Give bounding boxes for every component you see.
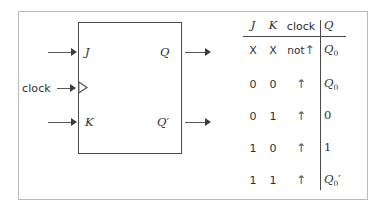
cell-q: Q0: [324, 44, 350, 56]
rising-edge-arrow-icon: ↑: [296, 109, 306, 123]
cell-j: 1: [244, 175, 262, 186]
k-port-label: K: [85, 117, 94, 129]
rising-edge-arrow-icon: ↑: [296, 173, 306, 187]
q-output-arrow-icon: [205, 48, 211, 56]
flip-flop-body: [78, 22, 182, 154]
cell-q: 1: [324, 142, 350, 154]
table-row: 10↑1: [238, 140, 350, 156]
q-port-label: Q: [160, 47, 169, 59]
cell-j: 1: [244, 143, 262, 154]
clock-input-label: clock: [22, 83, 51, 94]
clock-not-label: not: [287, 44, 304, 56]
cell-k: 1: [264, 175, 282, 186]
cell-clock: ↑: [282, 174, 320, 186]
rising-edge-arrow-icon: ↑: [296, 77, 306, 91]
table-row: 00↑Q0: [238, 76, 350, 92]
header-cell-clock: clock: [282, 21, 320, 32]
jk-flip-flop-figure: J K Q Q′ clock J K clock Q XXnot↑Q000↑Q0…: [0, 0, 383, 213]
table-header-rule: [243, 36, 346, 37]
qprime-port-label: Q′: [157, 117, 169, 129]
cell-k: 1: [264, 111, 282, 122]
cell-k: 0: [264, 143, 282, 154]
table-row: 01↑0: [238, 108, 350, 124]
cell-q: Q0: [324, 78, 350, 90]
clock-input-arrow-icon: [70, 84, 76, 92]
cell-clock: not↑: [282, 44, 320, 56]
k-input-arrow-icon: [71, 118, 77, 126]
rising-edge-arrow-icon: ↑: [305, 43, 315, 57]
cell-q: 0: [324, 110, 350, 122]
cell-clock: ↑: [282, 78, 320, 90]
header-cell-k: K: [264, 20, 282, 32]
cell-k: X: [264, 45, 282, 56]
table-row: XXnot↑Q0: [238, 42, 350, 58]
truth-table: J K clock Q XXnot↑Q000↑Q001↑010↑111↑Q0′: [238, 18, 350, 190]
cell-j: 0: [244, 79, 262, 90]
header-cell-j: J: [244, 20, 262, 32]
qprime-output-arrow-icon: [205, 118, 211, 126]
j-input-arrow-icon: [71, 48, 77, 56]
cell-q: Q0′: [324, 174, 350, 186]
rising-edge-arrow-icon: ↑: [296, 141, 306, 155]
table-header-row: J K clock Q: [238, 18, 350, 34]
cell-j: 0: [244, 111, 262, 122]
j-port-label: J: [85, 47, 90, 59]
header-cell-q: Q: [324, 20, 350, 32]
cell-clock: ↑: [282, 110, 320, 122]
cell-k: 0: [264, 79, 282, 90]
dynamic-clock-triangle-icon: [78, 81, 88, 94]
cell-clock: ↑: [282, 142, 320, 154]
table-row: 11↑Q0′: [238, 172, 350, 188]
cell-j: X: [244, 45, 262, 56]
